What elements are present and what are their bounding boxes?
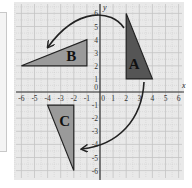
coordinate-plane: ABC xy-6-5-4-3-2-10123456654321-1-2-3-4-… bbox=[0, 0, 192, 188]
y-tick-label: -5 bbox=[92, 154, 98, 163]
x-tick-label: 4 bbox=[151, 94, 155, 103]
x-tick-label: -5 bbox=[31, 94, 37, 103]
x-tick-label: -3 bbox=[58, 94, 64, 103]
y-axis-label: y bbox=[102, 3, 107, 12]
y-tick-label: 6 bbox=[94, 9, 98, 18]
x-tick-label: 1 bbox=[111, 94, 115, 103]
y-tick-label: 2 bbox=[94, 62, 98, 71]
x-tick-label: 5 bbox=[164, 94, 168, 103]
x-tick-label: -6 bbox=[18, 94, 24, 103]
x-tick-label: -2 bbox=[71, 94, 77, 103]
y-tick-label: -2 bbox=[92, 114, 98, 123]
x-tick-label: -1 bbox=[84, 94, 90, 103]
triangle-label-b: B bbox=[66, 48, 76, 64]
y-tick-label: -4 bbox=[92, 140, 98, 149]
y-tick-label: -3 bbox=[92, 127, 98, 136]
y-tick-label: 4 bbox=[94, 36, 98, 45]
x-tick-label: 6 bbox=[177, 94, 181, 103]
grid-background bbox=[14, 2, 184, 180]
y-tick-label: -1 bbox=[92, 101, 98, 110]
y-tick-label: 3 bbox=[94, 49, 98, 58]
x-axis-label: x bbox=[181, 81, 186, 90]
y-tick-label: 5 bbox=[94, 23, 98, 32]
triangle-label-c: C bbox=[59, 113, 70, 129]
y-tick-label: -6 bbox=[92, 167, 98, 176]
origin-label: 0 bbox=[94, 83, 98, 92]
x-tick-label: 2 bbox=[124, 94, 128, 103]
triangle-label-a: A bbox=[129, 56, 140, 72]
x-tick-label: 0 bbox=[101, 94, 105, 103]
x-tick-label: -4 bbox=[44, 94, 50, 103]
